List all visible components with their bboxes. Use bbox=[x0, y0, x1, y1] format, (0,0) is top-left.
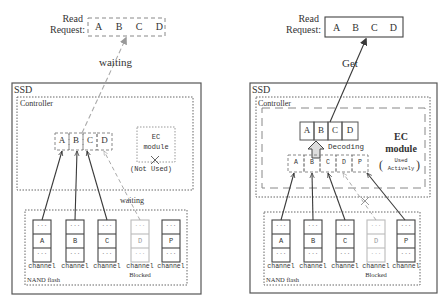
right-ec-module-label: EC module bbox=[378, 131, 424, 155]
ellipsis: ... bbox=[272, 249, 290, 256]
left-read-request-label: Read Request: bbox=[50, 13, 83, 35]
input-d: D bbox=[336, 159, 352, 166]
request-label: Request: bbox=[286, 24, 319, 35]
ellipsis: ... bbox=[162, 249, 180, 256]
right-decoded-labels: A B C D bbox=[300, 125, 358, 135]
channel-data-c: C bbox=[98, 237, 116, 245]
channel-label: channel bbox=[27, 263, 57, 270]
ec-line2: module bbox=[378, 143, 424, 155]
channel-label: channel bbox=[298, 263, 328, 270]
cell-d: D bbox=[156, 21, 163, 32]
left-nand-waiting-label: waiting bbox=[120, 196, 144, 205]
input-c: C bbox=[320, 159, 336, 166]
ellipsis: ... bbox=[66, 249, 84, 256]
buffer-d: D bbox=[97, 135, 112, 145]
channel-data-d: D bbox=[367, 237, 385, 245]
channel-data-a: A bbox=[272, 237, 290, 245]
channel-label: channel bbox=[156, 263, 186, 270]
cell-a: A bbox=[95, 21, 102, 32]
left-ssd-label: SSD bbox=[14, 84, 32, 95]
left-buffer-labels: A B C D bbox=[55, 135, 112, 145]
ec-line2: module bbox=[137, 142, 175, 152]
ellipsis: ... bbox=[162, 221, 180, 228]
right-controller-label: Controller bbox=[258, 99, 291, 108]
blocked-label: Blocked bbox=[363, 271, 389, 278]
channel-data-c: C bbox=[336, 237, 354, 245]
ec-line1: EC bbox=[137, 132, 175, 142]
cell-b: B bbox=[116, 21, 123, 32]
left-waiting-label: waiting bbox=[99, 56, 132, 68]
channel-label: channel bbox=[391, 263, 421, 270]
cell-a: A bbox=[333, 22, 340, 33]
ellipsis: ... bbox=[397, 249, 415, 256]
ellipsis: ... bbox=[33, 249, 51, 256]
decoded-a: A bbox=[300, 125, 314, 135]
left-ec-status: (Not Used) bbox=[130, 165, 172, 173]
ellipsis: ... bbox=[336, 221, 354, 228]
right-ssd-label: SSD bbox=[252, 84, 270, 95]
channel-data-d: D bbox=[131, 237, 149, 245]
ellipsis: ... bbox=[66, 221, 84, 228]
paren-close: ) bbox=[416, 158, 420, 173]
channel-data-p: P bbox=[162, 237, 180, 245]
ellipsis: ... bbox=[98, 249, 116, 256]
read-label: Read bbox=[286, 13, 319, 24]
ellipsis: ... bbox=[367, 249, 385, 256]
decoded-b: B bbox=[314, 125, 328, 135]
paren-open: ( bbox=[379, 158, 383, 173]
ec-line1: EC bbox=[378, 131, 424, 143]
ellipsis: ... bbox=[131, 249, 149, 256]
ellipsis: ... bbox=[98, 221, 116, 228]
right-read-request-label: Read Request: bbox=[286, 13, 319, 35]
input-b: B bbox=[304, 159, 320, 166]
left-read-request-cells: A B C D bbox=[95, 21, 163, 32]
ellipsis: ... bbox=[397, 221, 415, 228]
cell-b: B bbox=[352, 22, 359, 33]
channel-label: channel bbox=[266, 263, 296, 270]
channel-data-p: P bbox=[397, 237, 415, 245]
input-p: P bbox=[352, 159, 368, 166]
ellipsis: ... bbox=[33, 221, 51, 228]
channel-data-a: A bbox=[33, 237, 51, 245]
read-label: Read bbox=[50, 13, 83, 24]
ellipsis: ... bbox=[272, 221, 290, 228]
channel-data-b: B bbox=[66, 237, 84, 245]
ellipsis: ... bbox=[367, 221, 385, 228]
actively-label: Actively bbox=[386, 165, 416, 173]
right-get-label: Get bbox=[342, 57, 358, 69]
channel-label: channel bbox=[330, 263, 360, 270]
ellipsis: ... bbox=[304, 249, 322, 256]
request-label: Request: bbox=[50, 24, 83, 35]
channel-label: channel bbox=[125, 263, 155, 270]
channel-label: channel bbox=[361, 263, 391, 270]
ellipsis: ... bbox=[304, 221, 322, 228]
blocked-label: Blocked bbox=[127, 271, 153, 278]
cell-d: D bbox=[390, 22, 397, 33]
cell-c: C bbox=[371, 22, 378, 33]
buffer-c: C bbox=[83, 135, 97, 145]
ellipsis: ... bbox=[131, 221, 149, 228]
ellipsis: ... bbox=[336, 249, 354, 256]
buffer-a: A bbox=[55, 135, 69, 145]
left-controller-label: Controller bbox=[20, 99, 53, 108]
cell-c: C bbox=[136, 21, 143, 32]
used-label: Used bbox=[386, 157, 416, 165]
channel-label: channel bbox=[60, 263, 90, 270]
not-used-x-icon bbox=[151, 156, 159, 164]
right-read-request-cells: A B C D bbox=[333, 22, 397, 33]
left-ec-module-label: EC module bbox=[137, 132, 175, 152]
channel-label: channel bbox=[92, 263, 122, 270]
buffer-b: B bbox=[69, 135, 83, 145]
decoded-d: D bbox=[342, 125, 358, 135]
input-a: A bbox=[288, 159, 304, 166]
right-nand-label: NAND flash bbox=[266, 276, 299, 283]
decoding-label: Decoding bbox=[328, 143, 364, 151]
right-input-labels: A B C D P bbox=[288, 159, 368, 166]
left-nand-label: NAND flash bbox=[27, 276, 60, 283]
right-ec-status: Used Actively bbox=[386, 157, 416, 173]
channel-data-b: B bbox=[304, 237, 322, 245]
decoded-c: C bbox=[328, 125, 342, 135]
